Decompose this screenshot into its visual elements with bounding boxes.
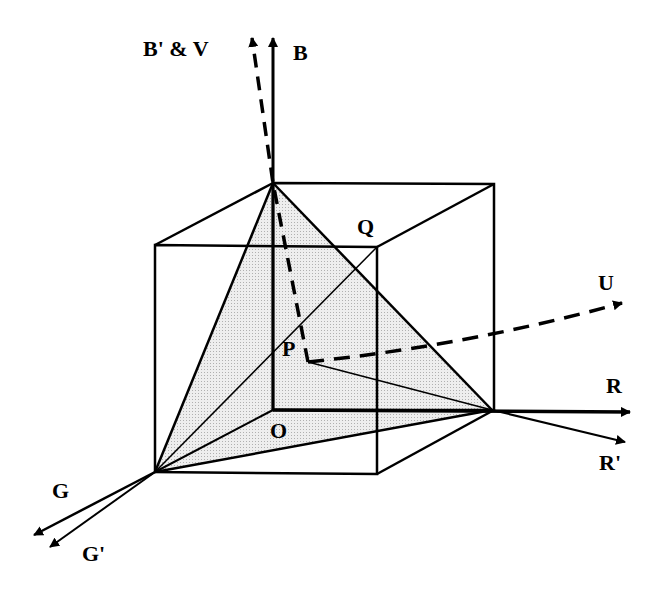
label-r-prime: R' bbox=[599, 450, 621, 475]
label-b-prime-v: B' & V bbox=[143, 36, 209, 61]
label-o: O bbox=[270, 418, 287, 443]
label-q: Q bbox=[357, 214, 374, 239]
cube-edge-top-right bbox=[377, 184, 494, 247]
label-p: P bbox=[282, 336, 295, 361]
label-g-prime: G' bbox=[82, 541, 105, 566]
color-cube-diagram: B' & V B Q U P R O R' G G' bbox=[0, 0, 661, 595]
label-g: G bbox=[52, 478, 69, 503]
shaded-triangle-plane bbox=[155, 183, 492, 472]
label-u: U bbox=[598, 270, 614, 295]
axis-r bbox=[273, 410, 630, 412]
label-b: B bbox=[293, 40, 308, 65]
label-r: R bbox=[606, 373, 623, 398]
axis-r-prime bbox=[492, 410, 625, 442]
